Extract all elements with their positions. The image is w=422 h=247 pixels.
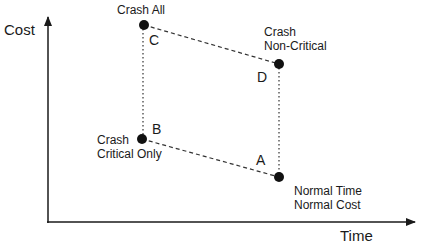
point-c-marker [139,20,149,30]
point-c-caption: Crash All [117,3,165,17]
y-axis-label: Cost [4,21,36,38]
point-b-caption-line1: Crash [97,133,129,147]
point-b-caption-line2: Critical Only [97,147,162,161]
point-d-marker [274,59,284,69]
point-d-caption-line1: Crash [264,25,296,39]
time-cost-diagram: Cost Time C D B A Crash All Crash Non-Cr… [0,0,422,247]
point-a-caption-line2: Normal Cost [294,198,361,212]
point-a-caption-line1: Normal Time [294,184,362,198]
point-d-letter: D [257,69,267,85]
point-b-letter: B [152,121,161,137]
point-b-marker [137,134,147,144]
connection-c-d [144,25,279,64]
point-a-letter: A [256,152,266,168]
point-c-letter: C [149,32,159,48]
x-axis-label: Time [340,227,373,244]
point-a-marker [274,172,284,182]
point-d-caption-line2: Non-Critical [264,39,327,53]
